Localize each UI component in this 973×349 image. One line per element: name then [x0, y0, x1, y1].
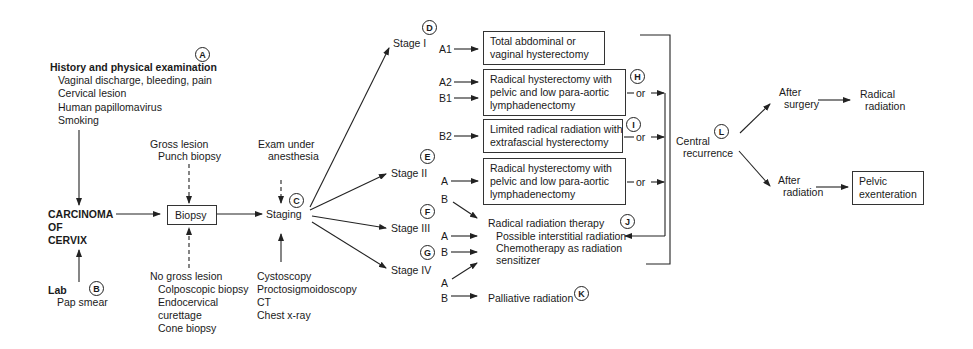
- treatment-line: Radical hysterectomy with: [490, 73, 619, 86]
- treatment-line: Radical hysterectomy with: [490, 162, 619, 175]
- substage-label: A: [441, 230, 448, 243]
- or-label: or: [636, 131, 645, 144]
- history-item: Vaginal discharge, bleeding, pain: [58, 74, 212, 87]
- after-radiation: radiation: [783, 186, 823, 199]
- treatment-line: pelvic and low para-aortic: [490, 175, 619, 188]
- treatment-total-hysterectomy: Total abdominal or vaginal hysterectomy: [483, 31, 605, 65]
- marker-b: B: [89, 281, 104, 296]
- no-gross-lesion-item: Endocervical: [158, 296, 218, 309]
- stage-2: Stage II: [391, 167, 427, 180]
- carcinoma-line: CARCINOMA: [48, 208, 113, 221]
- substage-label: B: [441, 292, 448, 305]
- radiation-therapy-title: Radical radiation therapy: [488, 217, 604, 230]
- treatment-limited-radiation: Limited radical radiation with extrafasc…: [483, 119, 623, 153]
- treatment-line: lymphadenectomy: [490, 99, 619, 112]
- treatment-radical-hysterectomy-2: Radical hysterectomy with pelvic and low…: [483, 158, 626, 205]
- lab-item: Pap smear: [57, 296, 108, 309]
- or-label: or: [636, 176, 645, 189]
- treatment-line: vaginal hysterectomy: [490, 48, 598, 61]
- radical-radiation: radiation: [865, 100, 905, 113]
- gross-lesion-item: Punch biopsy: [158, 150, 221, 163]
- marker-j: J: [620, 214, 635, 229]
- marker-e: E: [420, 149, 435, 164]
- recurrence-line: recurrence: [683, 147, 733, 160]
- stage-3: Stage III: [391, 222, 430, 235]
- history-item: Smoking: [58, 114, 99, 127]
- staging-label: Staging: [266, 208, 302, 221]
- treatment-line: pelvic and low para-aortic: [490, 86, 619, 99]
- history-item: Human papillomavirus: [58, 101, 162, 114]
- treatment-radical-hysterectomy-1: Radical hysterectomy with pelvic and low…: [483, 69, 626, 116]
- substage-label: A: [441, 175, 448, 188]
- staging-test: CT: [257, 296, 271, 309]
- marker-g: G: [420, 245, 435, 260]
- staging-test: Chest x-ray: [257, 309, 311, 322]
- marker-a: A: [195, 47, 210, 62]
- substage-label: A: [441, 277, 448, 290]
- palliative-radiation: Palliative radiation: [488, 292, 573, 305]
- history-item: Cervical lesion: [58, 87, 126, 100]
- marker-f: F: [420, 204, 435, 219]
- treatment-line: lymphadenectomy: [490, 188, 619, 201]
- pelvic-exenteration-box: Pelvic exenteration: [852, 171, 924, 205]
- radiation-therapy-item: sensitizer: [496, 254, 540, 267]
- substage-label: B1: [439, 92, 452, 105]
- pelvic-exenteration-line: Pelvic: [859, 175, 917, 188]
- marker-l: L: [714, 124, 729, 139]
- no-gross-lesion-item: Cone biopsy: [158, 322, 216, 335]
- treatment-line: Limited radical radiation with: [490, 123, 616, 136]
- staging-test: Cystoscopy: [257, 270, 311, 283]
- marker-d: D: [422, 20, 437, 35]
- treatment-line: Total abdominal or: [490, 35, 598, 48]
- substage-label: B2: [439, 130, 452, 143]
- exam-line: anesthesia: [268, 150, 319, 163]
- no-gross-lesion-item: curettage: [158, 309, 202, 322]
- treatment-line: extrafascial hysterectomy: [490, 136, 616, 149]
- substage-label: A2: [439, 76, 452, 89]
- marker-k: K: [574, 286, 589, 301]
- biopsy-box: Biopsy: [167, 205, 217, 225]
- carcinoma-line: CERVIX: [48, 234, 87, 247]
- or-label: or: [636, 87, 645, 100]
- no-gross-lesion-item: Colposcopic biopsy: [158, 283, 248, 296]
- marker-c: C: [289, 193, 304, 208]
- no-gross-lesion-title: No gross lesion: [150, 270, 222, 283]
- history-title: History and physical examination: [50, 61, 217, 74]
- marker-i: I: [626, 117, 641, 132]
- substage-label: B: [441, 246, 448, 259]
- pelvic-exenteration-line: exenteration: [859, 188, 917, 201]
- substage-label: B: [441, 193, 448, 206]
- stage-4: Stage IV: [391, 264, 431, 277]
- substage-label: A1: [439, 43, 452, 56]
- carcinoma-line: OF: [48, 221, 63, 234]
- staging-test: Proctosigmoidoscopy: [257, 283, 357, 296]
- stage-1: Stage I: [393, 37, 426, 50]
- marker-h: H: [630, 69, 645, 84]
- after-surgery: surgery: [784, 98, 819, 111]
